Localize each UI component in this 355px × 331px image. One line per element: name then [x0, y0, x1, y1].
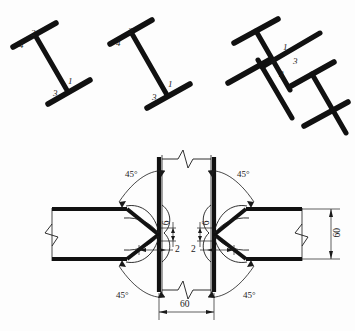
- right-beam-flanges: [246, 209, 302, 259]
- beam-depth-label: 60: [333, 228, 343, 238]
- angle-label-top-left: 45°: [125, 170, 138, 179]
- left-weld-bevels: [127, 209, 158, 259]
- angle-arrowheads: [119, 170, 254, 298]
- left-beam-flanges: [52, 209, 127, 259]
- root-gap-left-label: 2: [175, 245, 180, 255]
- angle-label-top-right: 45°: [237, 170, 250, 179]
- root-face-right-label: 6: [202, 220, 212, 225]
- break-symbols: [45, 150, 308, 299]
- root-face-left-label: 6: [162, 220, 172, 225]
- break-symbol-left: [45, 224, 58, 246]
- break-symbol-column-bottom: [162, 281, 211, 299]
- column-width-label: 60: [180, 300, 190, 310]
- angle-arcs: [119, 171, 254, 298]
- break-symbol-column-top: [162, 150, 211, 168]
- weld-bead-contours: [124, 205, 249, 262]
- angle-label-bottom-left: 45°: [116, 291, 129, 300]
- root-gap-right-label: 2: [191, 245, 196, 255]
- angle-label-bottom-right: 45°: [243, 291, 256, 300]
- detail-layer: [0, 0, 355, 331]
- drawing-sheet: 2 4 1 3 2 4 1 3 1 4 3 2: [0, 0, 355, 331]
- break-symbol-right: [295, 224, 308, 246]
- right-weld-bevels: [215, 209, 246, 259]
